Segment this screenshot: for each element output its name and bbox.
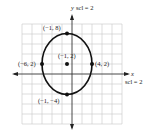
x-axis <box>12 72 130 76</box>
label-left-vertex: (−6, 2) <box>18 60 36 68</box>
point-right-vertex <box>90 62 94 66</box>
label-center: (−1, 2) <box>58 52 76 60</box>
ellipse-graph: y scl = 2 x scl = 2 (−1, 8) (−6, 2) (−1,… <box>0 0 150 131</box>
y-scale-label: scl = 2 <box>76 4 93 11</box>
y-axis <box>70 14 74 130</box>
x-axis-left-arrow-icon <box>12 72 18 76</box>
x-axis-label: x <box>130 70 134 77</box>
point-top-vertex <box>65 32 69 36</box>
point-bottom-vertex <box>65 93 69 97</box>
label-bottom-vertex: (−1, −4) <box>38 97 59 105</box>
y-axis-up-arrow-icon <box>70 14 74 20</box>
label-top-vertex: (−1, 8) <box>43 24 61 32</box>
x-axis-right-arrow-icon <box>124 72 130 76</box>
y-axis-label: y <box>70 4 74 11</box>
point-center <box>65 62 69 66</box>
label-right-vertex: (4, 2) <box>95 60 109 68</box>
y-axis-down-arrow-icon <box>70 124 74 130</box>
x-scale-label: scl = 2 <box>125 78 142 85</box>
point-left-vertex <box>40 62 44 66</box>
